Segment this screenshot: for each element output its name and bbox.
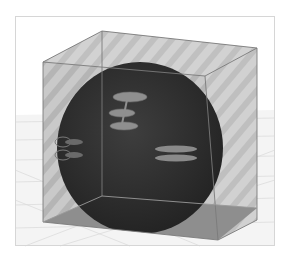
render-viewport — [0, 0, 290, 260]
scene-canvas — [0, 0, 290, 260]
sphere — [57, 62, 223, 234]
